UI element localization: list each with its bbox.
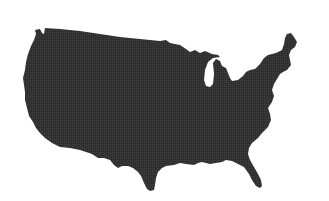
usa-map xyxy=(0,0,329,201)
map-canvas: Contiguous United States silhouette xyxy=(0,0,329,201)
usa-silhouette xyxy=(23,28,297,191)
